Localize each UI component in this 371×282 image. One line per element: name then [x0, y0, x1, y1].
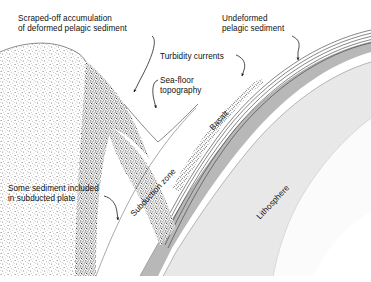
subduction-zone-diagram: Scraped-off accumulation of deformed pel…	[0, 0, 371, 282]
label-some-sediment-included: Some sediment included in subducted plat…	[8, 184, 99, 205]
leader-some-sediment	[104, 196, 118, 220]
overriding-plate	[0, 43, 86, 276]
diagram-canvas	[0, 0, 371, 282]
leader-scraped-off	[134, 36, 154, 92]
label-turbidity-currents: Turbidity currents	[160, 52, 224, 62]
bottom-margin	[0, 276, 371, 282]
leader-undeformed	[292, 36, 299, 60]
leader-turbidity	[236, 55, 245, 76]
label-undeformed-pelagic-sediment: Undeformed pelagic sediment	[222, 14, 284, 35]
label-sea-floor-topography: Sea-floor topography	[160, 76, 201, 97]
leader-seafloor	[153, 80, 158, 108]
label-scraped-off-accumulation: Scraped-off accumulation of deformed pel…	[18, 14, 127, 35]
